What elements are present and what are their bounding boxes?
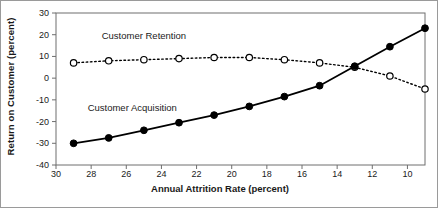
x-tick-label: 28 bbox=[76, 169, 106, 179]
data-point-0 bbox=[211, 54, 217, 60]
x-tick-label: 30 bbox=[41, 169, 71, 179]
x-tick-label: 14 bbox=[322, 169, 352, 179]
data-point-0 bbox=[387, 73, 393, 79]
data-point-0 bbox=[246, 54, 252, 60]
data-point-1 bbox=[141, 127, 148, 134]
series-line-0 bbox=[74, 58, 425, 90]
data-point-0 bbox=[281, 57, 287, 63]
y-tick-label: 30 bbox=[23, 8, 49, 18]
data-point-1 bbox=[316, 82, 323, 89]
x-tick-label: 26 bbox=[111, 169, 141, 179]
y-tick-label: -10 bbox=[23, 95, 49, 105]
x-tick-label: 10 bbox=[392, 169, 422, 179]
x-tick-label: 18 bbox=[252, 169, 282, 179]
data-point-1 bbox=[351, 63, 358, 70]
data-point-1 bbox=[105, 135, 112, 142]
data-point-0 bbox=[176, 55, 182, 61]
series-line-1 bbox=[74, 28, 425, 143]
x-tick-label: 22 bbox=[182, 169, 212, 179]
chart-figure: Return on Customer (percent) Annual Attr… bbox=[0, 0, 438, 208]
data-point-1 bbox=[387, 43, 394, 50]
x-tick-label: 24 bbox=[146, 169, 176, 179]
data-point-0 bbox=[70, 60, 76, 66]
data-point-1 bbox=[211, 112, 218, 119]
data-point-0 bbox=[106, 58, 112, 64]
series-annotation: Customer Acquisition bbox=[88, 102, 177, 113]
data-point-1 bbox=[70, 140, 77, 147]
data-point-1 bbox=[246, 103, 253, 110]
y-tick-label: 10 bbox=[23, 51, 49, 61]
x-tick-label: 16 bbox=[287, 169, 317, 179]
y-tick-label: -30 bbox=[23, 138, 49, 148]
series-annotation: Customer Retention bbox=[102, 30, 186, 41]
data-point-1 bbox=[422, 25, 429, 32]
x-tick-label: 12 bbox=[357, 169, 387, 179]
data-point-0 bbox=[422, 86, 428, 92]
x-tick-label: 20 bbox=[217, 169, 247, 179]
y-tick-label: 0 bbox=[23, 73, 49, 83]
data-point-1 bbox=[176, 119, 183, 126]
data-point-1 bbox=[281, 93, 288, 100]
y-tick-label: 20 bbox=[23, 30, 49, 40]
data-point-0 bbox=[141, 57, 147, 63]
y-tick-label: -20 bbox=[23, 117, 49, 127]
data-point-0 bbox=[316, 60, 322, 66]
